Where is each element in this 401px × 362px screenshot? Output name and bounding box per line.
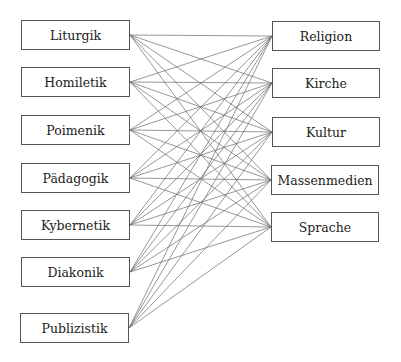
node-label: Sprache xyxy=(299,220,351,235)
node-label: Kybernetik xyxy=(41,218,110,233)
edge-diakonik-religion xyxy=(130,36,272,272)
node-massenmedien: Massenmedien xyxy=(271,165,379,195)
edge-poimenik-kirche xyxy=(130,83,272,130)
diagram-canvas: LiturgikHomiletikPoimenikPädagogikKybern… xyxy=(0,0,401,362)
node-liturgik: Liturgik xyxy=(21,20,130,50)
edge-publizistik-religion xyxy=(129,36,272,328)
node-label: Religion xyxy=(300,29,352,44)
edge-diakonik-sprache xyxy=(130,227,271,272)
node-label: Pädagogik xyxy=(43,171,109,186)
node-paedagogik: Pädagogik xyxy=(21,163,130,193)
edge-liturgik-religion xyxy=(130,35,272,36)
node-diakonik: Diakonik xyxy=(21,257,130,287)
node-label: Poimenik xyxy=(46,123,104,138)
edge-liturgik-kultur xyxy=(130,35,272,132)
edge-homiletik-religion xyxy=(130,36,272,82)
edge-publizistik-sprache xyxy=(129,227,271,328)
node-religion: Religion xyxy=(272,21,380,51)
node-label: Kultur xyxy=(306,125,346,140)
node-label: Kirche xyxy=(305,76,347,91)
edge-diakonik-kirche xyxy=(130,83,272,272)
edge-publizistik-kultur xyxy=(129,132,272,328)
node-sprache: Sprache xyxy=(271,212,379,242)
edge-diakonik-massenmedien xyxy=(130,180,271,272)
node-homiletik: Homiletik xyxy=(21,67,130,97)
node-kybernetik: Kybernetik xyxy=(21,210,130,240)
node-kirche: Kirche xyxy=(272,68,380,98)
node-label: Publizistik xyxy=(41,321,107,336)
node-label: Liturgik xyxy=(50,28,101,43)
node-publizistik: Publizistik xyxy=(20,313,129,343)
node-kultur: Kultur xyxy=(272,117,380,147)
node-label: Massenmedien xyxy=(277,173,372,188)
edge-diakonik-kultur xyxy=(130,132,272,272)
node-poimenik: Poimenik xyxy=(21,115,130,145)
edge-paedagogik-kultur xyxy=(130,132,272,178)
node-label: Homiletik xyxy=(44,75,106,90)
node-label: Diakonik xyxy=(47,265,103,280)
